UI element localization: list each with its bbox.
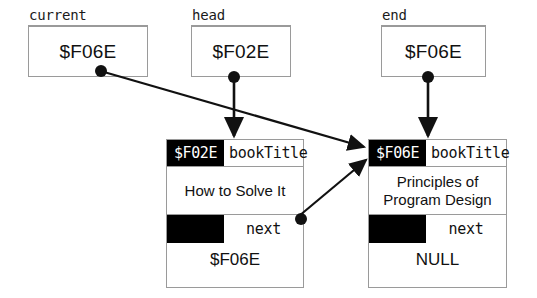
variable-label-end: end	[382, 7, 407, 23]
list-node-1: $F02E bookTitle How to Solve It next $F0…	[166, 139, 304, 288]
variable-box-head: $F02E	[191, 26, 291, 77]
node-2-title-value: Principles of Program Design	[369, 167, 506, 214]
node-1-next-value: $F06E	[167, 244, 303, 276]
arrow-end-to-node2	[422, 71, 434, 136]
node-2-next-value: NULL	[369, 244, 506, 276]
node-2-title-field-name: bookTitle	[431, 140, 510, 166]
node-2-next-field-name: next	[426, 215, 506, 243]
node-1-next-address-cell	[167, 215, 224, 243]
arrow-head-to-node1	[228, 71, 240, 136]
variable-label-current: current	[29, 7, 87, 23]
node-1-title-value: How to Solve It	[167, 167, 303, 214]
arrow-node1-next-to-node2	[295, 160, 366, 225]
diagram-canvas: current $F06E head $F02E end $F06E $F02E…	[0, 0, 537, 298]
node-1-address-cell: $F02E	[167, 140, 224, 166]
list-node-2: $F06E bookTitle Principles of Program De…	[368, 139, 507, 288]
variable-label-head: head	[192, 7, 225, 23]
node-2-next-address-cell	[369, 215, 426, 243]
arrow-current-to-node2	[95, 65, 364, 147]
variable-value-head: $F02E	[192, 40, 290, 62]
node-1-next-field-name: next	[224, 215, 303, 243]
node-1-title-field-name: bookTitle	[229, 140, 308, 166]
variable-box-current: $F06E	[28, 26, 148, 77]
node-2-address-cell: $F06E	[369, 140, 426, 166]
variable-value-current: $F06E	[29, 40, 147, 62]
variable-value-end: $F06E	[382, 40, 485, 62]
variable-box-end: $F06E	[381, 26, 486, 77]
